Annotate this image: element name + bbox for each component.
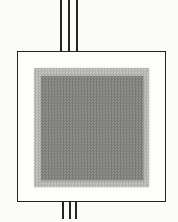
lead-wire [69, 202, 71, 219]
lead-wire [68, 0, 70, 52]
figure-canvas [0, 0, 178, 222]
lead-wire [76, 0, 78, 52]
lead-wire [60, 0, 62, 52]
lead-wire [75, 202, 77, 219]
lead-wire [62, 202, 64, 219]
package-outline [17, 51, 166, 202]
inner-pad [41, 76, 143, 180]
outer-pad [34, 68, 149, 187]
